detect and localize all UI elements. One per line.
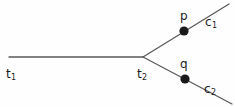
point-p-dot	[179, 26, 188, 35]
node-label-c1-base: c	[205, 15, 212, 29]
node-label-q: q	[180, 58, 188, 70]
node-label-t2-subscript: 2	[142, 73, 147, 82]
node-label-t2-base: t	[137, 67, 142, 81]
diagram-canvas: t1 t2 p q c1 c2	[0, 0, 235, 107]
node-label-t1-subscript: 1	[11, 73, 16, 82]
node-label-p: p	[180, 10, 188, 22]
node-label-c2-base: c	[204, 82, 211, 96]
node-label-c2-subscript: 2	[211, 88, 216, 97]
node-label-t1-base: t	[6, 67, 11, 81]
node-label-p-base: p	[180, 9, 188, 23]
node-label-t2: t2	[137, 68, 147, 80]
point-q-dot	[180, 74, 189, 83]
diagram-graphics	[0, 0, 235, 107]
node-label-c2: c2	[204, 83, 216, 95]
node-label-c1: c1	[205, 16, 217, 28]
node-label-c1-subscript: 1	[212, 21, 217, 30]
node-label-t1: t1	[6, 68, 16, 80]
node-label-q-base: q	[180, 57, 188, 71]
